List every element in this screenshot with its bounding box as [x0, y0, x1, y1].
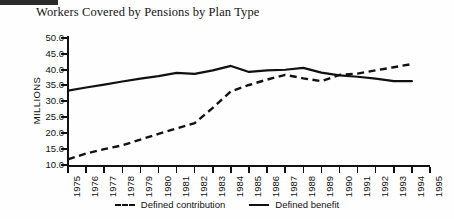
legend-item-defined-contribution: Defined contribution [115, 199, 226, 210]
chart-legend: Defined contribution Defined benefit [0, 199, 454, 210]
plot-area: MILLIONS 50.0 45.0 40.0 35.0 30.0 25.0 2… [0, 0, 454, 219]
legend-item-defined-benefit: Defined benefit [249, 199, 339, 210]
solid-line-icon [249, 204, 269, 206]
series-lines [0, 0, 454, 219]
legend-label: Defined benefit [275, 199, 339, 210]
dashed-line-icon [115, 204, 135, 206]
line-defined-contribution [68, 64, 412, 159]
chart-figure: Workers Covered by Pensions by Plan Type… [0, 0, 454, 219]
legend-label: Defined contribution [141, 199, 226, 210]
